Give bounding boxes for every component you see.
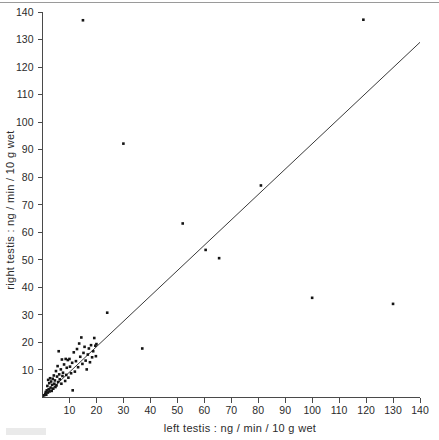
x-tick-label: 60 [198,404,210,416]
data-point [74,370,77,373]
data-point [181,222,184,225]
x-tick-label: 40 [145,404,157,416]
y-tick-label: 130 [16,33,34,45]
data-point [72,351,75,354]
data-point [58,378,61,381]
data-point [95,355,98,358]
data-point [362,18,365,21]
data-point [60,382,63,385]
y-tick-label: 110 [17,88,34,100]
data-point [55,370,58,373]
x-tick-label: 20 [91,404,103,416]
y-tick-label: 90 [22,143,34,155]
data-point [122,142,125,145]
data-point [76,348,79,351]
data-point [49,386,52,389]
data-point [84,359,87,362]
reference-line [43,42,421,397]
data-point [218,257,221,260]
y-tick-label: 100 [16,116,34,128]
y-tick-label: 30 [22,309,34,321]
x-tick-label: 100 [303,404,321,416]
data-point [89,361,92,364]
data-point [45,393,48,396]
data-point [82,19,85,22]
data-point [54,379,57,382]
data-point [71,362,74,365]
data-point [260,184,263,187]
data-point [92,350,95,353]
data-point [69,365,72,368]
data-point [85,368,88,371]
data-point [141,347,144,350]
data-point [50,380,53,383]
data-point [49,377,52,380]
data-point [56,365,59,368]
y-tick-label: 20 [22,336,34,348]
x-tick-label: 50 [171,404,183,416]
y-tick-label: 120 [16,61,34,73]
page-corner-artifact [6,428,46,435]
data-point [61,358,64,361]
data-point [68,358,71,361]
y-tick-label: 80 [22,171,34,183]
data-point [87,353,90,356]
data-point [392,303,395,306]
x-tick-label: 90 [279,404,291,416]
data-point [61,375,64,378]
data-point [67,376,70,379]
data-point [75,360,78,363]
data-point [95,343,98,346]
data-point [53,374,56,377]
x-tick-label: 140 [411,404,429,416]
y-tick-label: 10 [22,364,34,376]
data-point [78,342,81,345]
data-point [70,372,73,375]
data-point [55,384,58,387]
data-point [63,363,66,366]
y-tick-label: 50 [22,254,34,266]
y-axis-title: right testis : ng / min / 10 g wet [4,130,16,289]
data-point [311,297,314,300]
x-tick-label: 10 [64,404,76,416]
data-point [82,352,85,355]
x-tick-label: 30 [118,404,130,416]
data-point [46,385,49,388]
data-point [62,371,65,374]
y-axis: 102030405060708090100110120130140 [16,6,43,398]
data-points-group [43,18,395,396]
identity-reference-line [43,42,421,397]
y-tick-label: 60 [22,226,34,238]
y-tick-label: 70 [22,199,34,211]
data-point [106,311,109,314]
x-tick-label: 130 [384,404,402,416]
data-point [58,373,61,376]
scatter-plot-figure: 102030405060708090100110120130140 102030… [0,0,439,440]
x-tick-label: 80 [252,404,264,416]
data-point [71,389,74,392]
data-point [60,368,63,371]
y-tick-label: 40 [22,281,34,293]
data-point [77,366,80,369]
data-point [81,363,84,366]
x-axis: 102030405060708090100110120130140 [43,398,429,416]
x-axis-title: left testis : ng / min / 10 g wet [164,422,316,434]
data-point [80,336,83,339]
data-point [90,344,93,347]
x-tick-label: 70 [225,404,237,416]
data-point [65,374,68,377]
data-point [93,337,96,340]
data-point [64,380,67,383]
x-tick-label: 110 [331,404,348,416]
data-point [57,350,60,353]
data-point [83,346,86,349]
x-tick-label: 120 [357,404,375,416]
data-point [65,366,68,369]
data-point [57,381,60,384]
data-point [91,356,94,359]
data-point [88,347,91,350]
y-tick-label: 140 [16,6,34,18]
plot-canvas: 102030405060708090100110120130140 102030… [0,0,439,440]
data-point [204,249,207,252]
data-point [79,355,82,358]
